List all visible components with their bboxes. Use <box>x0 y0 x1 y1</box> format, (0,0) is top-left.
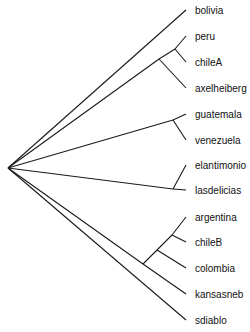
branch-n_arg_chileB_col-to-colombia <box>157 250 186 268</box>
branch-n_peru_chileA_axel-to-axelheiberg <box>159 59 186 88</box>
leaf-label-argentina: argentina <box>195 212 237 223</box>
leaf-label-sdiablo: sdiablo <box>195 315 227 326</box>
leaf-label-axelheiberg: axelheiberg <box>195 83 247 94</box>
branch-n_peru_chileA-to-peru <box>175 36 186 49</box>
leaf-label-chileB: chileB <box>195 237 223 248</box>
branch-root-to-sdiablo <box>8 168 186 320</box>
leaf-label-guatemala: guatemala <box>195 109 242 120</box>
branch-root-to-n_peru_chileA_axel <box>8 59 159 168</box>
leaf-label-venezuela: venezuela <box>195 135 241 146</box>
branch-n_arg_chileB_col-to-n_arg_chileB <box>157 235 172 250</box>
branch-n_arg_chileB-to-argentina <box>172 217 186 235</box>
leaf-label-bolivia: bolivia <box>195 5 224 16</box>
branch-root-to-bolivia <box>8 10 186 168</box>
branch-n_peru_chileA_axel-to-n_peru_chileA <box>159 49 175 59</box>
branch-n_arg_chileB-to-chileB <box>172 235 186 242</box>
branch-n_guat_vene-to-venezuela <box>173 120 186 140</box>
phylogenetic-tree: boliviaperuchileAaxelheibergguatemalaven… <box>0 0 250 332</box>
tree-edges <box>8 10 186 320</box>
branch-n_guat_vene-to-guatemala <box>173 114 186 120</box>
leaf-labels: boliviaperuchileAaxelheibergguatemalaven… <box>195 5 247 326</box>
branch-n_elant_lasd-to-lasdelicias <box>173 189 186 190</box>
branch-n_arg_chileB_col_kan-to-n_arg_chileB_col <box>143 250 157 264</box>
leaf-label-elantimonio: elantimonio <box>195 160 247 171</box>
leaf-label-lasdelicias: lasdelicias <box>195 185 241 196</box>
branch-n_peru_chileA-to-chileA <box>175 49 186 62</box>
branch-root-to-n_guat_vene <box>8 120 173 168</box>
leaf-label-colombia: colombia <box>195 263 235 274</box>
leaf-label-peru: peru <box>195 31 215 42</box>
leaf-label-kansasneb: kansasneb <box>195 289 244 300</box>
leaf-label-chileA: chileA <box>195 57 223 68</box>
branch-n_elant_lasd-to-elantimonio <box>173 165 186 189</box>
